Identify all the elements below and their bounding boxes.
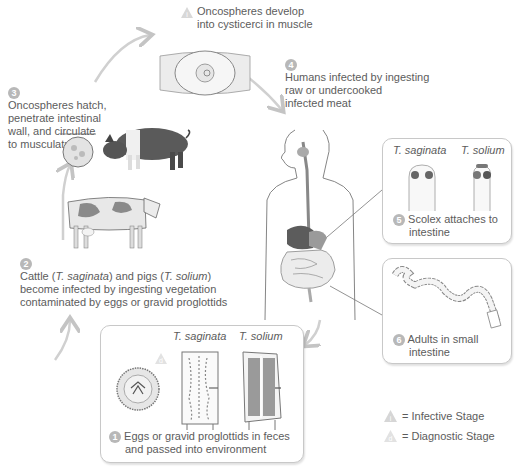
stage-5-badge: 5 xyxy=(393,214,405,226)
stage-6-box: 6 Adults in small intestine xyxy=(382,258,512,364)
text-line: Oncospheres develop xyxy=(197,5,313,18)
stage-2-label: 2 Cattle (T. saginata) and pigs (T. soli… xyxy=(20,257,227,309)
text-line: raw or undercooked xyxy=(285,84,429,97)
svg-text:d: d xyxy=(159,357,163,364)
stage-1-badge: 1 xyxy=(109,431,121,443)
stage-5-label: 5 Scolex attaches to intestine xyxy=(393,213,498,239)
species-label-t-saginata: T. saginata xyxy=(393,144,446,157)
scolex-t-solium-illustration xyxy=(467,163,497,215)
legend-item-diagnostic: d = Diagnostic Stage xyxy=(384,426,495,446)
text-line: contaminated by eggs or gravid proglotti… xyxy=(20,296,227,309)
text-line: Humans infected by ingesting xyxy=(285,71,429,84)
legend-label: = Infective Stage xyxy=(402,410,484,423)
human-digestive-system-illustration xyxy=(265,130,355,334)
proglottid-t-solium-illustration xyxy=(239,348,283,434)
text-fragment: Cattle ( xyxy=(20,270,55,282)
text-line: penetrate intestinal xyxy=(8,112,106,125)
cysticerci-in-muscle-illustration xyxy=(160,48,250,102)
text-line: intestine xyxy=(393,226,498,239)
stage-4-badge: 4 xyxy=(285,59,297,71)
stage-1-label: 1 Eggs or gravid proglottids in feces an… xyxy=(109,430,290,456)
stage-6-badge: 6 xyxy=(393,334,405,346)
stage-5-box: T. saginata T. solium 5 Scolex attaches … xyxy=(382,138,512,244)
stage-1-box: T. saginata T. solium d 1 Eggs or grav xyxy=(100,325,304,463)
oncosphere-intestinal-wall-illustration xyxy=(60,130,96,174)
text-line: Cattle (T. saginata) and pigs (T. solium… xyxy=(20,270,227,283)
text-fragment: ) and pigs ( xyxy=(109,270,164,282)
pig-illustration xyxy=(100,120,190,176)
stage-6-label: 6 Adults in small intestine xyxy=(393,333,478,359)
text-line: Adults in small xyxy=(407,333,478,345)
legend-label: = Diagnostic Stage xyxy=(402,430,495,443)
adult-tapeworm-illustration xyxy=(389,265,507,333)
taenia-egg-illustration xyxy=(115,366,161,416)
text-line: Oncospheres hatch, xyxy=(8,99,106,112)
stage-2-badge: 2 xyxy=(20,258,32,270)
scolex-t-saginata-illustration xyxy=(405,163,439,215)
legend: i = Infective Stage d = Diagnostic Stage xyxy=(384,406,495,446)
species-t-saginata: T. saginata xyxy=(55,270,108,282)
text-line: Eggs or gravid proglottids in feces xyxy=(124,430,290,442)
text-fragment: ) xyxy=(208,270,212,282)
species-label-t-saginata: T. saginata xyxy=(173,330,226,343)
text-line: and passed into environment xyxy=(109,443,290,456)
text-line: intestine xyxy=(393,346,478,359)
legend-item-infective: i = Infective Stage xyxy=(384,406,495,426)
species-label-t-solium: T. solium xyxy=(239,330,283,343)
text-line: Scolex attaches to xyxy=(408,213,498,225)
proglottid-t-saginata-illustration xyxy=(179,348,221,434)
text-line: into cysticerci in muscle xyxy=(197,18,313,31)
text-line: become infected by ingesting vegetation xyxy=(20,283,227,296)
stage-4-label: 4 Humans infected by ingesting raw or un… xyxy=(285,58,429,110)
text-line: infected meat xyxy=(285,97,429,110)
species-t-solium: T. solium xyxy=(164,270,208,282)
svg-text:d: d xyxy=(389,435,393,442)
diagnostic-stage-icon: d xyxy=(384,430,397,442)
infective-stage-icon: i xyxy=(384,410,397,422)
species-label-t-solium: T. solium xyxy=(461,144,505,157)
cow-illustration xyxy=(60,190,165,256)
infective-stage-icon: i xyxy=(181,4,193,22)
stage-3-badge: 3 xyxy=(8,87,20,99)
stage-cysticerci-label: Oncospheres develop into cysticerci in m… xyxy=(197,5,313,31)
